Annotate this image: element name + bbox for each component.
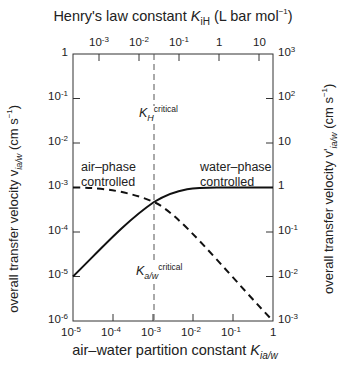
y-tick-1: 10-1: [48, 90, 68, 102]
x-tick-2: 10-3: [141, 326, 161, 338]
right-tick-5: 10-2: [278, 268, 298, 280]
top-tick-0: 10-3: [89, 36, 109, 48]
y-tick-4: 10-4: [48, 224, 68, 236]
right-tick-3: 1: [278, 179, 284, 191]
top-tick-1: 10-2: [129, 36, 149, 48]
y-tick-2: 10-2: [48, 135, 68, 147]
y-axis-label-left: overall transfer velocity via/w (cm s−1): [6, 94, 24, 324]
right-tick-4: 10-1: [278, 224, 298, 236]
x-tick-0: 10-5: [61, 326, 81, 338]
right-tick-1: 102: [278, 90, 295, 102]
right-tick-2: 10: [278, 135, 291, 147]
x-tick-4: 10-1: [221, 326, 241, 338]
x-tick-5: 1: [270, 326, 276, 338]
top-tick-4: 10: [253, 36, 266, 48]
y-tick-0: 1: [62, 46, 68, 58]
right-tick-6: 10-3: [278, 313, 298, 325]
y-tick-6: 10-6: [48, 313, 68, 325]
annotation-water-phase: water–phase controlled: [200, 160, 272, 190]
y-tick-5: 10-5: [48, 268, 68, 280]
top-ticks: [99, 54, 259, 61]
annotation-air-phase: air–phase controlled: [81, 160, 136, 190]
right-tick-0: 103: [278, 46, 295, 58]
x-tick-1: 10-4: [101, 326, 121, 338]
annotation-kh-critical: KHcritical: [139, 106, 178, 123]
top-tick-2: 10-1: [169, 36, 189, 48]
bottom-ticks: [113, 314, 233, 321]
top-tick-3: 1: [216, 36, 222, 48]
y-tick-3: 10-3: [48, 179, 68, 191]
annotation-kaw-critical: Ka/wcritical: [136, 264, 182, 281]
y-axis-label-right: overall transfer velocity v'ia/w (cm s−1…: [321, 74, 339, 304]
dashed-curve-vprime: [73, 188, 273, 322]
x-tick-3: 10-2: [181, 326, 201, 338]
x-axis-label: air–water partition constant Kia/w: [60, 342, 290, 361]
